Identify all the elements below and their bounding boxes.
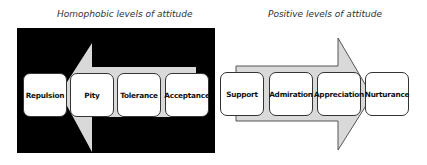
- level-box-appreciation: Appreciation: [317, 72, 361, 116]
- level-box-support: Support: [220, 72, 264, 116]
- level-box-pity: Pity: [70, 73, 114, 117]
- level-label: Appreciation: [314, 90, 364, 99]
- level-box-admiration: Admiration: [269, 72, 313, 116]
- level-label: Repulsion: [26, 91, 65, 100]
- level-box-acceptance: Acceptance: [165, 73, 209, 117]
- level-box-nurturance: Nurturance: [365, 72, 409, 116]
- level-label: Tolerance: [120, 91, 158, 100]
- level-label: Admiration: [269, 90, 313, 99]
- level-label: Nurturance: [365, 90, 410, 99]
- level-box-repulsion: Repulsion: [23, 73, 67, 117]
- level-label: Pity: [84, 91, 99, 100]
- level-label: Support: [226, 90, 258, 99]
- level-box-tolerance: Tolerance: [117, 73, 161, 117]
- level-label: Acceptance: [164, 91, 209, 100]
